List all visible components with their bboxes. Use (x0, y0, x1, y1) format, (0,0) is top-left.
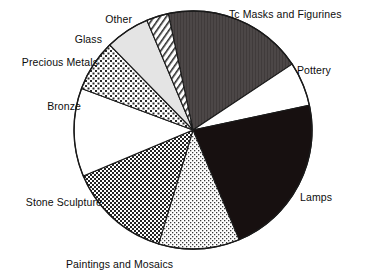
slice-label-paintings: Paintings and Mosaics (66, 258, 173, 270)
pie-slice-group (74, 11, 312, 249)
slice-label-lamps: Lamps (300, 191, 332, 203)
slice-label-other: Other (70, 13, 132, 25)
slice-label-precious-metals: Precious Metals (3, 56, 98, 68)
slice-label-pottery: Pottery (297, 64, 331, 76)
pie-chart-figure: Tc Masks and Figurines Pottery Lamps Pai… (0, 0, 371, 280)
slice-label-stone-sculpture: Stone Sculpture (14, 196, 102, 208)
slice-label-bronze: Bronze (18, 100, 81, 112)
slice-label-tc-masks: Tc Masks and Figurines (229, 8, 342, 20)
slice-label-glass: Glass (40, 33, 102, 45)
